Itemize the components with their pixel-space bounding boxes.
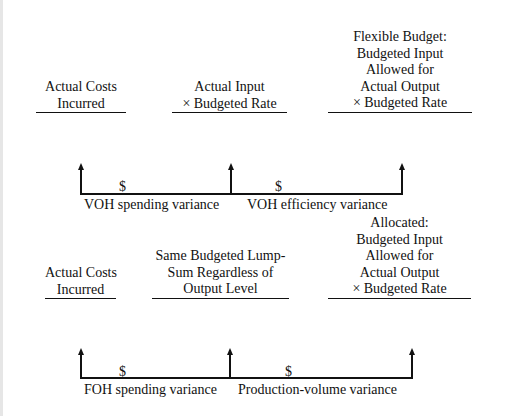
production-volume-variance-label: Production-volume variance <box>238 382 397 398</box>
production-volume-amount: $ <box>285 365 292 379</box>
foh-arrow-shaft-3 <box>411 353 413 378</box>
arrow-up-icon <box>399 163 405 170</box>
arrow-up-icon <box>78 348 84 355</box>
col-line: Allowed for <box>328 248 471 265</box>
col-line: Budgeted Input <box>328 46 472 63</box>
col-line-underlined: × Budgeted Rate <box>172 96 287 114</box>
voh-efficiency-variance-label: VOH efficiency variance <box>247 197 387 213</box>
col-line: Allocated: <box>328 215 471 232</box>
foh-col-actual-costs: Actual Costs Incurred <box>45 265 116 299</box>
col-line: Same Budgeted Lump- <box>152 248 289 265</box>
col-line-underlined: Incurred <box>45 282 116 300</box>
voh-spending-amount: $ <box>119 180 126 194</box>
foh-col-allocated: Allocated: Budgeted Input Allowed for Ac… <box>328 215 471 299</box>
foh-spending-variance-label: FOH spending variance <box>84 382 217 398</box>
foh-col-budgeted-lump-sum: Same Budgeted Lump- Sum Regardless of Ou… <box>152 248 289 299</box>
col-line-underlined: Output Level <box>152 281 289 299</box>
col-line-underlined: × Budgeted Rate <box>328 95 472 113</box>
voh-bracket-line <box>80 193 403 195</box>
col-line: Flexible Budget: <box>328 29 472 46</box>
foh-arrow-shaft-1 <box>80 353 82 378</box>
voh-efficiency-amount: $ <box>275 180 282 194</box>
arrow-up-icon <box>409 348 415 355</box>
voh-spending-variance-label: VOH spending variance <box>84 197 219 213</box>
col-line: Budgeted Input <box>328 232 471 249</box>
col-line-underlined: Incurred <box>36 96 126 114</box>
voh-arrow-shaft-2 <box>230 168 232 194</box>
foh-bracket-line <box>80 377 413 379</box>
voh-arrow-shaft-3 <box>401 168 403 194</box>
foh-spending-amount: $ <box>119 365 126 379</box>
voh-col-actual-costs: Actual Costs Incurred <box>36 79 126 113</box>
page-edge <box>0 0 3 416</box>
col-line: Allowed for <box>328 62 472 79</box>
col-line: Actual Output <box>328 79 472 96</box>
voh-col-flexible-budget: Flexible Budget: Budgeted Input Allowed … <box>328 29 472 113</box>
col-line: Actual Costs <box>45 265 116 282</box>
arrow-up-icon <box>228 163 234 170</box>
foh-arrow-shaft-2 <box>229 353 231 378</box>
col-line: Actual Costs <box>36 79 126 96</box>
col-line: Sum Regardless of <box>152 265 289 282</box>
arrow-up-icon <box>78 163 84 170</box>
voh-col-actual-input: Actual Input × Budgeted Rate <box>172 79 287 113</box>
col-line: Actual Input <box>172 79 287 96</box>
col-line: Actual Output <box>328 265 471 282</box>
arrow-up-icon <box>227 348 233 355</box>
col-line-underlined: × Budgeted Rate <box>328 281 471 299</box>
voh-arrow-shaft-1 <box>80 168 82 194</box>
